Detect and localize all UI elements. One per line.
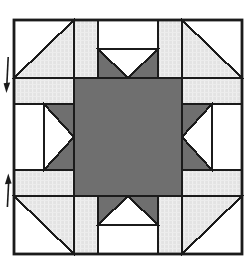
direction-arrow-up (5, 174, 12, 208)
center-square (74, 78, 182, 196)
spacer-right-bottom (182, 170, 242, 196)
top-edge-rect (98, 20, 158, 49)
quilt-diagram-page (0, 0, 248, 280)
direction-arrow-up-head-icon (5, 174, 12, 185)
direction-arrows (4, 57, 12, 207)
block-pieces (14, 20, 242, 254)
spacer-left-bottom (14, 170, 74, 196)
quilt-block-diagram (0, 0, 248, 280)
direction-arrow-down (4, 57, 11, 93)
spacer-bottom-left (74, 196, 98, 254)
spacer-bottom-right (158, 196, 182, 254)
spacer-top-left (74, 20, 98, 78)
left-edge-rect (14, 104, 44, 170)
bottom-edge-rect (98, 225, 158, 254)
spacer-top-right (158, 20, 182, 78)
right-edge-rect (212, 104, 242, 170)
spacer-right-top (182, 78, 242, 104)
direction-arrow-down-head-icon (4, 83, 11, 93)
spacer-left-top (14, 78, 74, 104)
